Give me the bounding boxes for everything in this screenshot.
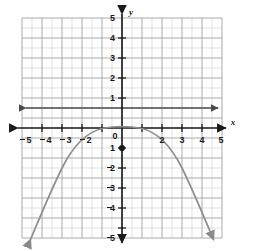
x-tick-label-minus5: 5 <box>26 135 31 145</box>
y-tick-label-4: 4 <box>110 33 115 43</box>
x-tick-label-minus3: 3 <box>66 135 71 145</box>
y-tick-label-2: 2 <box>110 73 115 83</box>
x-tick-label-minus2: 2 <box>86 135 91 145</box>
x-tick-label-5: 5 <box>218 135 223 145</box>
x-tick-label-minus4: 4 <box>46 135 51 145</box>
coordinate-plane-figure: 5 4 3 2 0 2 3 4 5 5 4 3 2 1 1 2 3 4 5 x … <box>0 0 254 251</box>
y-tick-label-minus1: 1 <box>110 143 115 153</box>
point-0-minus-1 <box>119 145 125 151</box>
x-tick-label-3: 3 <box>179 135 184 145</box>
x-tick-label-2: 2 <box>159 135 164 145</box>
x-axis-label: x <box>230 117 236 127</box>
y-tick-label-3: 3 <box>110 53 115 63</box>
x-tick-label-4: 4 <box>199 135 204 145</box>
graph-canvas: 5 4 3 2 0 2 3 4 5 5 4 3 2 1 1 2 3 4 5 x … <box>0 0 254 251</box>
y-tick-label-5: 5 <box>110 13 115 23</box>
x-tick-label-origin: 0 <box>112 131 117 141</box>
y-tick-label-1: 1 <box>110 93 115 103</box>
